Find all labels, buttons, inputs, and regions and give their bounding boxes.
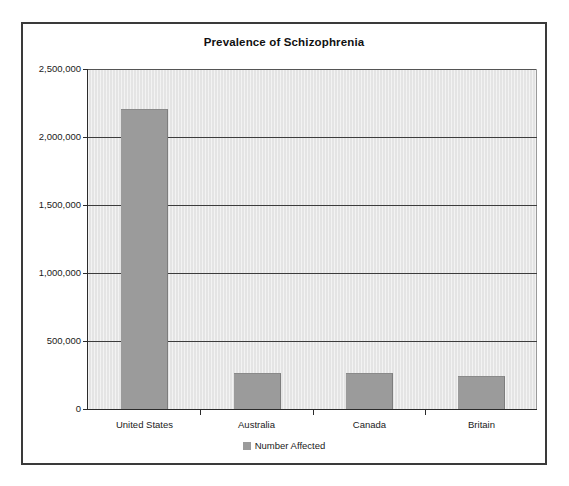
y-label-500000: 500,000: [21, 335, 81, 346]
y-label-2000000: 2,000,000: [21, 131, 81, 142]
x-label-australia: Australia: [200, 419, 313, 430]
plot-right-border: [536, 69, 537, 409]
y-tick-1000000: [83, 273, 88, 274]
y-tick-2000000: [83, 137, 88, 138]
x-tick-2: [313, 410, 314, 415]
y-tick-2500000: [83, 69, 88, 70]
x-tick-3: [425, 410, 426, 415]
y-tick-0: [83, 409, 88, 410]
x-label-united-states: United States: [88, 419, 201, 430]
y-label-1500000-wrap: 1,500,000: [23, 199, 81, 211]
y-label-0: 0: [21, 403, 81, 414]
bar-canada[interactable]: [346, 373, 393, 409]
y-tick-1500000: [83, 205, 88, 206]
plot-top-border: [88, 69, 537, 70]
y-label-1000000-wrap: 1,000,000: [23, 267, 81, 279]
y-label-1500000: 1,500,000: [21, 199, 81, 210]
bar-britain[interactable]: [458, 376, 505, 409]
y-axis-line: [87, 69, 88, 410]
legend-swatch-number-affected: [243, 442, 251, 450]
y-label-1000000: 1,000,000: [21, 267, 81, 278]
bar-australia[interactable]: [234, 373, 281, 409]
plot-area: [88, 69, 537, 409]
x-label-britain: Britain: [425, 419, 538, 430]
chart-title: Prevalence of Schizophrenia: [23, 36, 545, 48]
chart-window: Prevalence of Schizophrenia 2,500,000 2,…: [21, 22, 547, 465]
chart-legend: Number Affected: [23, 440, 545, 451]
y-tick-500000: [83, 341, 88, 342]
y-label-500000-wrap: 500,000: [23, 335, 81, 347]
y-label-2000000-wrap: 2,000,000: [23, 131, 81, 143]
x-label-canada: Canada: [313, 419, 426, 430]
y-label-2500000-wrap: 2,500,000: [23, 63, 81, 75]
legend-label-number-affected: Number Affected: [255, 440, 326, 451]
x-axis-line: [87, 409, 537, 410]
y-label-2500000: 2,500,000: [21, 63, 81, 74]
x-tick-1: [200, 410, 201, 415]
y-label-0-wrap: 0: [23, 403, 81, 415]
bar-united-states[interactable]: [121, 109, 168, 409]
